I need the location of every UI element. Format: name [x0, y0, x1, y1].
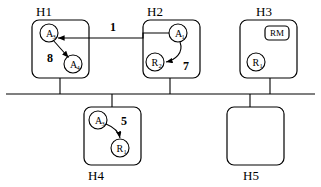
node-h2-r-base: R: [152, 57, 159, 68]
node-h3-r[interactable]: R 1: [247, 53, 265, 71]
node-h2-a-sub: 1: [182, 33, 185, 40]
host-h2-label: H2: [147, 4, 163, 19]
node-h4-r-sub: 1: [124, 148, 127, 155]
host-h1[interactable]: H1 A 3 A 4 8: [32, 4, 89, 78]
node-h4-r-base: R: [117, 143, 124, 154]
host-wires: [60, 78, 270, 107]
edge-7-label: 7: [183, 59, 189, 73]
edge-5-label: 5: [121, 114, 127, 128]
host-h5[interactable]: H5: [227, 107, 284, 183]
node-h4-a[interactable]: A 3: [89, 111, 107, 129]
host-h4-label: H4: [88, 168, 104, 183]
host-h1-label: H1: [36, 4, 52, 19]
host-h2[interactable]: H2 A 1 R 2 7: [143, 4, 200, 78]
diagram-canvas: H1 A 3 A 4 8 H2: [0, 0, 321, 187]
host-h5-label: H5: [243, 168, 259, 183]
node-h2-a[interactable]: A 1: [169, 24, 187, 42]
node-h2-r-sub: 2: [159, 62, 162, 69]
edge-8-label: 8: [47, 51, 53, 65]
node-h1-a-bottom[interactable]: A 4: [64, 55, 82, 73]
diagram-svg: H1 A 3 A 4 8 H2: [0, 0, 321, 187]
node-h3-r-base: R: [253, 57, 260, 68]
node-h2-r[interactable]: R 2: [146, 53, 164, 71]
edge-1-label: 1: [110, 20, 116, 34]
node-h1-a-top[interactable]: A 3: [40, 24, 58, 42]
node-h4-a-sub: 3: [102, 120, 105, 127]
node-h4-r[interactable]: R 1: [111, 139, 129, 157]
rm-box-label: RM: [270, 28, 284, 38]
host-h4[interactable]: H4 A 3 R 1 5: [84, 107, 141, 183]
rm-box[interactable]: RM: [265, 26, 289, 40]
node-h1-a-top-sub: 3: [53, 33, 56, 40]
host-h3[interactable]: H3 RM R 1: [240, 4, 297, 78]
host-h3-label: H3: [256, 4, 272, 19]
node-h3-r-sub: 1: [260, 62, 263, 69]
host-h5-box[interactable]: [227, 107, 284, 165]
